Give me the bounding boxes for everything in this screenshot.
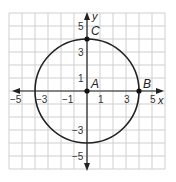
y-axis-label: y xyxy=(91,10,99,22)
point-a xyxy=(84,88,89,93)
x-tick-label: −1 xyxy=(62,94,74,105)
y-axis-down-arrow-icon xyxy=(84,163,90,171)
point-b xyxy=(136,88,141,93)
x-tick-label: 5 xyxy=(150,94,156,105)
point-c-label: C xyxy=(91,24,100,38)
y-tick-label: 5 xyxy=(78,21,84,32)
y-tick-label: −5 xyxy=(72,151,84,162)
x-axis-label: x xyxy=(157,94,164,106)
point-b-label: B xyxy=(143,77,151,91)
point-a-label: A xyxy=(90,77,99,91)
x-tick-label: −3 xyxy=(36,94,48,105)
coordinate-plane: A B C x y −5 −3 −1 1 3 5 5 3 1 −3 −5 xyxy=(0,0,176,182)
y-tick-label: −3 xyxy=(72,125,84,136)
y-tick-label: 1 xyxy=(78,73,84,84)
y-tick-label: 3 xyxy=(78,47,84,58)
x-tick-label: 3 xyxy=(124,94,130,105)
point-c xyxy=(84,36,89,41)
x-tick-label: 1 xyxy=(98,94,104,105)
x-tick-label: −5 xyxy=(10,94,22,105)
